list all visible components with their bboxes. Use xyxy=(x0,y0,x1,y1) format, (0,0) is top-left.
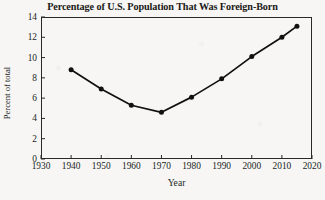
data-series-layer: 1940: 8.81950: 6.91960: 5.31970: 4.61980… xyxy=(41,17,312,159)
y-tick-label: 14 xyxy=(28,12,37,22)
data-point-marker: 2015: 13.1 xyxy=(294,24,299,29)
x-tick-label: 2020 xyxy=(303,161,322,171)
chart-figure: Percentage of U.S. Population That Was F… xyxy=(0,0,325,200)
data-point-marker: 1980: 6.1 xyxy=(189,95,194,100)
x-tick-label: 1940 xyxy=(62,161,81,171)
x-tick-label: 2010 xyxy=(273,161,292,171)
data-point-marker: 2000: 10.1 xyxy=(249,54,254,59)
x-tick-label: 1970 xyxy=(152,161,171,171)
data-point-marker: 1940: 8.8 xyxy=(69,67,74,72)
y-tick-label: 6 xyxy=(32,93,37,103)
data-point-marker: 2010: 12 xyxy=(279,35,284,40)
y-axis-tick-labels: 02468101214 xyxy=(12,17,37,159)
x-axis-label: Year xyxy=(41,177,312,188)
y-tick-label: 2 xyxy=(32,134,37,144)
x-tick-label: 2000 xyxy=(242,161,261,171)
data-point-marker: 1970: 4.6 xyxy=(159,110,164,115)
x-tick-label: 1980 xyxy=(182,161,201,171)
y-tick-label: 4 xyxy=(32,113,37,123)
y-tick-label: 8 xyxy=(32,73,37,83)
y-tick-label: 10 xyxy=(28,53,37,63)
x-tick-label: 1930 xyxy=(32,161,51,171)
chart-title: Percentage of U.S. Population That Was F… xyxy=(0,1,325,12)
y-axis-label: Percent of total xyxy=(2,56,12,130)
data-point-marker: 1990: 7.9 xyxy=(219,76,224,81)
series-line xyxy=(71,26,297,112)
x-axis-tick-labels: 1930194019501960197019801990200020102020 xyxy=(41,161,312,175)
x-tick-label: 1950 xyxy=(92,161,111,171)
x-tick-label: 1960 xyxy=(122,161,141,171)
x-tick-label: 1990 xyxy=(212,161,231,171)
y-tick-label: 12 xyxy=(28,32,37,42)
plot-area: 1940: 8.81950: 6.91960: 5.31970: 4.61980… xyxy=(41,17,312,159)
data-point-marker: 1950: 6.9 xyxy=(99,87,104,92)
data-point-marker: 1960: 5.3 xyxy=(129,103,134,108)
